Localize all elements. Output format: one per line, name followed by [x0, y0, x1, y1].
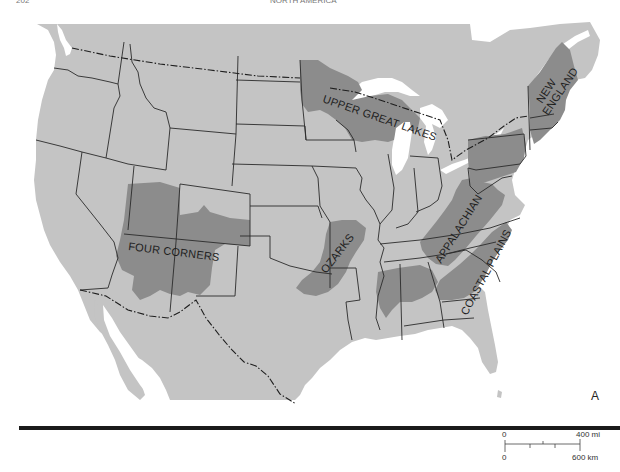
scale-bar: 0 400 mi 0 600 km — [502, 430, 600, 462]
map-baseline-rule — [19, 426, 620, 430]
scale-bottom-start: 0 — [502, 453, 507, 462]
running-title: NORTH AMERICA — [270, 0, 337, 5]
scale-top-start: 0 — [502, 430, 507, 439]
map-figure: 202 NORTH AMERICA — [0, 0, 620, 472]
scale-bottom-end: 600 km — [572, 453, 599, 462]
scale-top-end: 400 mi — [576, 430, 600, 439]
panel-letter: A — [591, 389, 599, 403]
page-number: 202 — [16, 0, 30, 5]
page-header: 202 NORTH AMERICA — [16, 0, 337, 5]
